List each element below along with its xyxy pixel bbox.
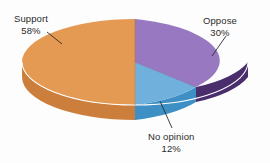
pie-chart: Support 58% Oppose 30% No opinion 12% (0, 0, 270, 163)
slice-label-no-opinion: No opinion 12% (148, 131, 194, 154)
leader-line-oppose (212, 36, 226, 56)
slice-label-oppose-percent: 30% (203, 27, 237, 39)
slice-label-no-opinion-percent: 12% (148, 143, 194, 155)
slice-label-support: Support 58% (14, 13, 48, 36)
slice-label-no-opinion-name: No opinion (148, 131, 194, 142)
slice-label-support-name: Support (14, 13, 48, 24)
slice-label-oppose-name: Oppose (203, 15, 237, 26)
slice-label-support-percent: 58% (14, 25, 48, 37)
slice-label-oppose: Oppose 30% (203, 15, 237, 38)
